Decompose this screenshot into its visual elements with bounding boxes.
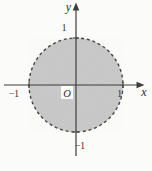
tick-label-y-neg1: −1: [75, 141, 85, 151]
tick-label-x-neg1: −1: [9, 89, 19, 99]
unit-disk-figure: y x 1 −1 −1 1 O: [0, 0, 152, 171]
tick-label-x-pos1: 1: [117, 89, 122, 99]
diagram-canvas: y x 1 −1 −1 1 O: [0, 0, 152, 171]
x-axis-label: x: [140, 85, 147, 99]
origin-label: O: [63, 88, 71, 99]
tick-label-y-pos1: 1: [62, 23, 67, 33]
y-axis-label: y: [65, 0, 72, 14]
